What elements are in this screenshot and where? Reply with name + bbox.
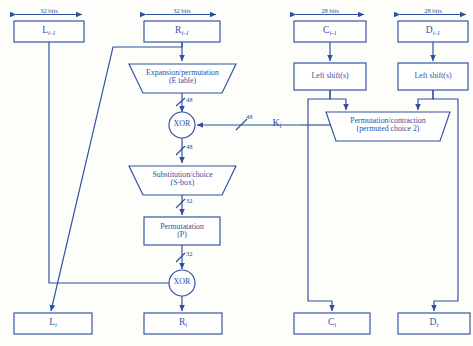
box-input-left-half xyxy=(14,21,84,42)
box-left-shift-d xyxy=(398,63,468,90)
box-input-key-d xyxy=(398,21,468,42)
shape-xor-top xyxy=(169,112,195,138)
shape-expansion-trapezoid xyxy=(129,64,236,93)
box-output-left-half xyxy=(14,313,92,334)
slash-bits-after-expansion xyxy=(176,98,185,106)
slash-bits-after-permutation xyxy=(176,253,185,262)
box-output-right-half xyxy=(144,313,222,334)
box-output-key-c xyxy=(294,313,370,334)
slash-bits-after-xor xyxy=(176,146,185,155)
diagram-canvas xyxy=(0,0,473,346)
slash-bits-after-sbox xyxy=(176,199,185,208)
box-input-right-half xyxy=(144,21,220,42)
box-output-key-d xyxy=(398,313,470,334)
shape-substitution-trapezoid xyxy=(129,166,236,195)
des-round-diagram: 32 bits 32 bits 28 bits 28 bits Li-1 Ri-… xyxy=(0,0,473,346)
box-input-key-c xyxy=(294,21,366,42)
line-shift-c-bypass-to-output xyxy=(308,90,332,311)
box-permutation xyxy=(144,217,220,245)
shape-xor-bottom xyxy=(169,270,195,296)
line-shift-c-to-key-permutation xyxy=(330,90,346,110)
box-left-shift-c xyxy=(294,63,366,90)
shape-key-permutation-trapezoid xyxy=(326,112,450,141)
line-shift-d-to-key-permutation xyxy=(418,90,433,110)
